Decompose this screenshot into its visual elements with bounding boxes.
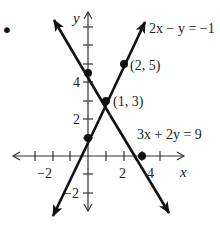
y-axis (83, 12, 93, 211)
line-3x-plus-2y (54, 20, 169, 213)
y-tick-label-2: 2 (73, 112, 80, 127)
point-0-4.5 (84, 69, 92, 77)
point-0-1 (84, 134, 92, 142)
bullet-marker: • (1, 18, 13, 42)
x-tick-label-2: 2 (119, 166, 126, 181)
equation-label-line2: 3x + 2y = 9 (137, 127, 202, 142)
point-1-3-intersection (102, 97, 110, 105)
graph-canvas: y x −2 2 4 4 2 −2 (2, 5) (1, 3) 2x − (0, 0, 220, 233)
equation-label-line1: 2x − y = −1 (149, 21, 215, 36)
line-2x-minus-y (53, 22, 145, 216)
x-axis-label: x (179, 164, 187, 180)
x-axis (13, 151, 184, 161)
linear-system-graph: • (0, 0, 220, 233)
y-tick-label-4: 4 (73, 75, 80, 90)
x-tick-label-neg2: −2 (37, 166, 52, 181)
y-axis-label: y (71, 10, 80, 26)
point-2-5 (120, 60, 128, 68)
plotted-points (84, 60, 146, 160)
point-label-2-5: (2, 5) (130, 58, 161, 74)
point-label-1-3: (1, 3) (113, 94, 144, 110)
point-3-0 (138, 152, 146, 160)
